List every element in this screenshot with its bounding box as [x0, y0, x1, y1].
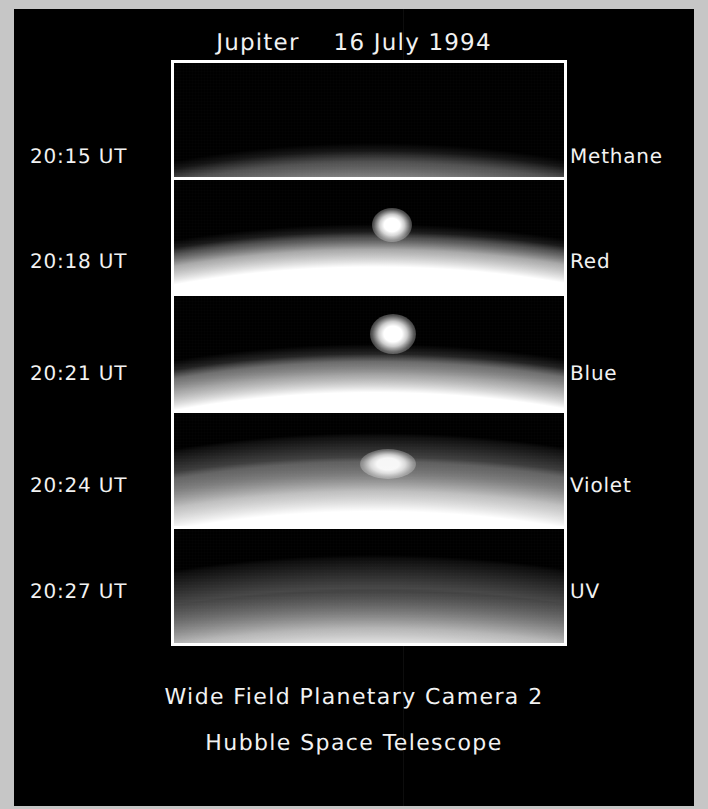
caption-instrument: Wide Field Planetary Camera 2: [14, 685, 694, 710]
filter-label-red: Red: [570, 249, 694, 273]
filter-label-blue: Blue: [570, 361, 694, 385]
time-label-2: 20:18 UT: [30, 249, 172, 273]
caption-observatory: Hubble Space Telescope: [14, 731, 694, 756]
impact-plume: [360, 449, 416, 479]
image-plate: Jupiter 16 July 1994 20:15 UT 20:18 UT 2…: [14, 9, 694, 806]
image-panel-red: [174, 180, 564, 297]
filter-label-violet: Violet: [570, 473, 694, 497]
filter-label-uv: UV: [570, 579, 694, 603]
time-label-5: 20:27 UT: [30, 579, 172, 603]
time-label-1: 20:15 UT: [30, 144, 172, 168]
limb-haze: [174, 555, 564, 643]
image-panel-blue: [174, 296, 564, 413]
limb-haze: [174, 433, 564, 530]
screenshot-canvas: Jupiter 16 July 1994 20:15 UT 20:18 UT 2…: [0, 0, 708, 809]
impact-plume: [372, 208, 412, 242]
filter-label-methane: Methane: [570, 144, 694, 168]
image-panel-methane: [174, 63, 564, 180]
image-panel-violet: [174, 413, 564, 530]
image-panel-uv: [174, 529, 564, 643]
impact-plume: [370, 314, 416, 354]
time-label-4: 20:24 UT: [30, 473, 172, 497]
page-title: Jupiter 16 July 1994: [14, 30, 694, 56]
limb-haze: [174, 224, 564, 297]
image-panel-stack: [171, 60, 567, 646]
limb-haze: [174, 344, 564, 413]
time-label-3: 20:21 UT: [30, 361, 172, 385]
